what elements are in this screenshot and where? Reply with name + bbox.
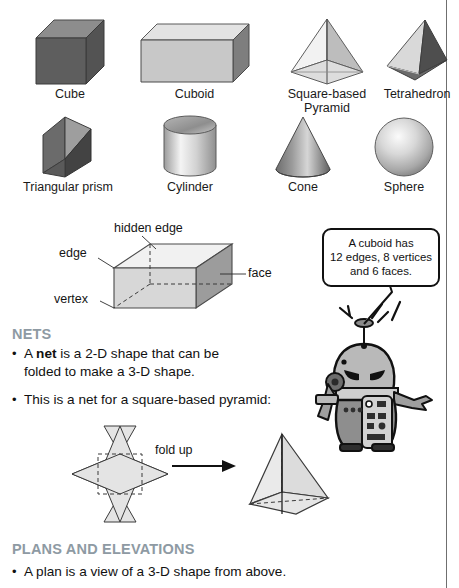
anatomy-label-edge: edge [59,246,87,260]
anatomy-label-hidden-edge: hidden edge [114,221,183,235]
nets-bullet-2: • This is a net for a square-based pyram… [12,391,312,409]
section-heading-plans-and-elevations: PLANS AND ELEVATIONS [12,541,195,557]
cylinder-illustration [154,113,226,181]
worksheet-page: Cube Cuboid Square-based Pyramid [0,0,459,588]
shape-cell-tetrahedron: Tetrahedron [378,16,456,102]
speech-bubble-line-1: A cuboid has [329,236,433,250]
shape-cell-cone: Cone [256,113,350,195]
nets-bullet-1-strong: net [36,346,56,361]
nets-bullet-2-text: This is a net for a square-based pyramid… [24,391,271,409]
plans-bullet-1-text: A plan is a view of a 3-D shape from abo… [24,563,286,581]
shape-cell-square-based-pyramid: Square-based Pyramid [272,16,382,115]
square-based-pyramid-illustration [285,16,369,88]
bullet-marker: • [12,345,24,362]
nets-bullet-1-text: A net is a 2-D shape that can be folded … [24,345,252,380]
anatomy-label-vertex: vertex [54,292,88,306]
plans-bullet-1: • A plan is a view of a 3-D shape from a… [12,563,352,581]
shape-label-tetrahedron: Tetrahedron [378,88,456,102]
fold-up-label: fold up [155,443,193,457]
shape-cell-triangular-prism: Triangular prism [10,113,126,195]
sphere-illustration [369,113,439,181]
shape-label-sphere: Sphere [356,181,452,195]
nets-bullet-1-pre: A [24,346,36,361]
tetrahedron-illustration [379,16,455,88]
triangular-prism-illustration [31,113,105,181]
cone-illustration [268,113,338,181]
shape-label-square-based-pyramid: Square-based Pyramid [272,88,382,115]
shape-label-triangular-prism: Triangular prism [10,181,126,195]
shape-cell-cuboid: Cuboid [127,16,262,102]
speech-bubble-line-2: 12 edges, 8 vertices [329,250,433,264]
bullet-marker: • [12,563,24,580]
nets-bullet-1: • A net is a 2-D shape that can be folde… [12,345,252,380]
labelled-cuboid-diagram: hidden edge edge face vertex [62,228,312,320]
shape-label-cylinder: Cylinder [135,181,245,195]
shape-label-cone: Cone [256,181,350,195]
shape-cell-sphere: Sphere [356,113,452,195]
shape-label-cube: Cube [16,88,124,102]
speech-bubble: A cuboid has 12 edges, 8 vertices and 6 … [322,228,440,287]
bullet-marker: • [12,391,24,408]
shape-label-cuboid: Cuboid [127,88,262,102]
section-heading-nets: NETS [12,326,51,342]
net-fold-diagram [60,428,340,523]
speech-bubble-line-3: and 6 faces. [329,264,433,278]
shape-cell-cube: Cube [16,16,124,102]
anatomy-label-face: face [248,266,272,280]
shape-cell-cylinder: Cylinder [135,113,245,195]
cube-illustration [32,16,108,88]
cuboid-illustration [135,16,255,88]
